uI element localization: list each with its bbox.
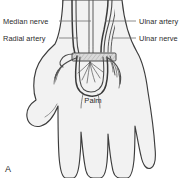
label-radial-artery: Radial artery <box>3 34 46 43</box>
hand-silhouette <box>27 0 156 178</box>
hand-outline-group <box>27 0 156 178</box>
label-palm: Palm <box>84 96 101 105</box>
panel-label-a: A <box>5 164 11 174</box>
anatomy-figure-panel: Median nerve Radial artery Ulnar artery … <box>0 0 195 178</box>
flexor-retinaculum-hatching <box>72 53 116 61</box>
label-median-nerve: Median nerve <box>3 17 48 26</box>
flexor-retinaculum-group <box>72 53 116 61</box>
hand-anatomy-illustration: Median nerve Radial artery Ulnar artery … <box>0 0 195 178</box>
label-ulnar-artery: Ulnar artery <box>139 17 178 26</box>
label-ulnar-nerve: Ulnar nerve <box>139 34 178 43</box>
